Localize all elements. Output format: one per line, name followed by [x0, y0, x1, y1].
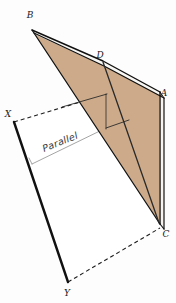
- vertex-label-a: A: [160, 88, 168, 98]
- vertex-label-x: X: [4, 109, 12, 119]
- vertex-label-y: Y: [64, 288, 71, 298]
- geometry-diagram: B D A C X Y Parallel: [0, 0, 176, 303]
- vertex-label-c: C: [163, 229, 170, 239]
- vertex-label-b: B: [26, 10, 34, 20]
- vertex-label-d: D: [95, 50, 103, 60]
- diagram-canvas: B D A C X Y Parallel: [0, 0, 176, 303]
